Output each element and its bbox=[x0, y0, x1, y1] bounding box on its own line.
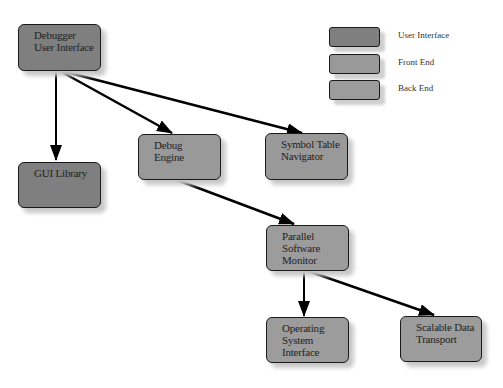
node-scalable-data-transport: Scalable Data Transport bbox=[400, 316, 482, 362]
edge-debugger-ui-to-debug-engine bbox=[60, 71, 172, 133]
legend-label-back-end: Back End bbox=[398, 83, 433, 93]
node-label-line: Engine bbox=[154, 151, 220, 163]
node-label-line: Transport bbox=[416, 333, 481, 345]
node-parallel-software-monitor: Parallel Software Monitor bbox=[266, 225, 349, 271]
node-label-line: Interface bbox=[282, 346, 348, 358]
node-label-line: Parallel bbox=[282, 230, 348, 242]
node-label-line: Debugger bbox=[34, 29, 100, 41]
node-label-line: Symbol Table bbox=[281, 138, 347, 150]
node-label-line: User Interface bbox=[34, 41, 100, 53]
node-label-line: Navigator bbox=[281, 150, 347, 162]
node-debug-engine: Debug Engine bbox=[138, 134, 221, 180]
node-label-line: Monitor bbox=[282, 254, 348, 266]
node-label-line: Operating bbox=[282, 322, 348, 334]
node-label-line: Debug bbox=[154, 139, 220, 151]
node-label-line: GUI Library bbox=[34, 167, 100, 179]
node-debugger-user-interface: Debugger User Interface bbox=[18, 24, 101, 71]
node-label-line: Scalable Data bbox=[416, 321, 481, 333]
node-label-line: Software bbox=[282, 242, 348, 254]
edge-psm-to-scalable-data-transport bbox=[308, 271, 434, 315]
node-gui-library: GUI Library bbox=[18, 162, 101, 208]
node-label-line: System bbox=[282, 334, 348, 346]
legend-label-front-end: Front End bbox=[398, 57, 434, 67]
legend-label-user-interface: User Interface bbox=[398, 30, 449, 40]
node-operating-system-interface: Operating System Interface bbox=[266, 317, 349, 363]
legend-swatch-user-interface bbox=[329, 27, 380, 47]
legend-swatch-front-end bbox=[329, 54, 380, 74]
legend-swatch-back-end bbox=[329, 80, 380, 100]
node-symbol-table-navigator: Symbol Table Navigator bbox=[265, 133, 348, 180]
edge-debugger-ui-to-symbol-table-navigator bbox=[62, 71, 302, 133]
edge-debug-engine-to-parallel-software-monitor bbox=[177, 180, 294, 224]
